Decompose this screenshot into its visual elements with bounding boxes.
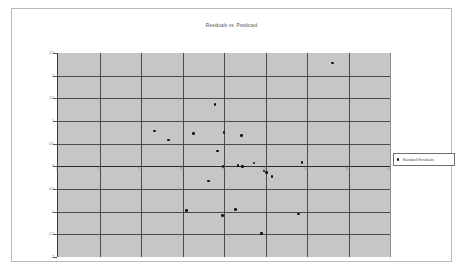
- scatter-point[interactable]: [153, 130, 156, 133]
- y-axis-tick-mark: [53, 98, 57, 99]
- x-axis-tick-label: 35: [346, 167, 350, 171]
- y-axis-tick-mark: [53, 189, 57, 190]
- y-axis-tick-mark: [53, 212, 57, 213]
- y-axis-tick-labels: 2.521.510.50-0.5-1-1.5-2: [34, 53, 54, 257]
- scatter-point[interactable]: [271, 175, 274, 178]
- x-axis-tick-label: 15: [180, 167, 184, 171]
- x-axis-tick-labels: 0510152025303540: [57, 167, 391, 175]
- vertical-gridline: [266, 53, 267, 257]
- y-axis-tick-mark: [53, 53, 57, 54]
- scatter-point[interactable]: [221, 214, 224, 217]
- x-axis-tick-label: 30: [304, 167, 308, 171]
- vertical-gridline: [141, 53, 142, 257]
- scatter-point[interactable]: [214, 103, 217, 106]
- x-axis-tick-label: 0: [56, 167, 58, 171]
- scatter-point[interactable]: [192, 132, 195, 135]
- scatter-point[interactable]: [216, 150, 219, 153]
- scatter-point[interactable]: [297, 213, 300, 216]
- scatter-point[interactable]: [240, 134, 243, 137]
- scatter-point[interactable]: [301, 161, 304, 164]
- plot-area: [57, 53, 391, 257]
- chart-legend[interactable]: Standard Residuals: [393, 153, 455, 166]
- x-axis-tick-label: 20: [221, 167, 225, 171]
- chart-title: Residuals vs. Predicted: [12, 23, 451, 28]
- scatter-point[interactable]: [253, 162, 256, 165]
- vertical-gridline: [183, 53, 184, 257]
- legend-series-label: Standard Residuals: [402, 158, 433, 162]
- y-axis-tick-mark: [53, 76, 57, 77]
- y-axis-tick-mark: [53, 144, 57, 145]
- chart-frame: Residuals vs. Predicted 2.521.510.50-0.5…: [11, 8, 452, 262]
- x-axis-tick-label: 10: [138, 167, 142, 171]
- scatter-point[interactable]: [185, 209, 188, 212]
- vertical-gridline: [100, 53, 101, 257]
- scatter-point[interactable]: [167, 139, 170, 142]
- x-axis-tick-label: 40: [387, 167, 391, 171]
- vertical-gridline: [224, 53, 225, 257]
- y-axis-tick-mark: [53, 166, 57, 167]
- legend-marker-icon: [397, 158, 399, 160]
- scatter-point[interactable]: [207, 180, 210, 183]
- scatter-point[interactable]: [234, 208, 237, 211]
- scatter-point[interactable]: [260, 232, 263, 235]
- vertical-gridline: [307, 53, 308, 257]
- x-axis-tick-label: 5: [98, 167, 100, 171]
- y-axis-tick-mark: [53, 257, 57, 258]
- y-axis-tick-mark: [53, 234, 57, 235]
- x-axis-tick-label: 25: [263, 167, 267, 171]
- vertical-gridline: [349, 53, 350, 257]
- scatter-point[interactable]: [331, 62, 334, 65]
- y-axis-tick-mark: [53, 121, 57, 122]
